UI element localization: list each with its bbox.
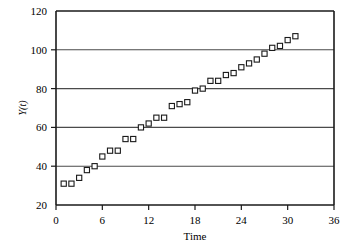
data-point-marker [262, 51, 267, 56]
x-tick-label: 18 [190, 214, 202, 226]
y-tick-label: 40 [36, 160, 48, 172]
y-axis-title: Y(t) [17, 100, 29, 116]
x-tick-label: 0 [53, 214, 59, 226]
y-tick-label-group: 20406080100120 [31, 5, 48, 211]
data-point-marker [293, 34, 298, 39]
x-tick-label: 12 [143, 214, 154, 226]
scatter-chart: 061218243036 20406080100120 Time Y(t) [0, 0, 359, 245]
x-tick-label: 36 [329, 214, 341, 226]
data-point-marker [131, 136, 136, 141]
data-point-marker [123, 136, 128, 141]
data-point-marker [69, 181, 74, 186]
data-point-marker [192, 88, 197, 93]
data-point-marker [146, 121, 151, 126]
y-tick-label: 120 [31, 5, 48, 17]
data-point-marker [185, 100, 190, 105]
data-point-marker [254, 57, 259, 62]
data-point-marker [246, 61, 251, 66]
data-point-marker [100, 154, 105, 159]
data-point-marker [285, 38, 290, 43]
data-point-marker [61, 181, 66, 186]
plot-frame [56, 11, 334, 205]
data-point-marker [154, 115, 159, 120]
data-point-marker [77, 175, 82, 180]
data-point-marker [107, 148, 112, 153]
data-point-marker [84, 167, 89, 172]
x-axis-title: Time [184, 230, 207, 242]
y-tick-label: 20 [36, 199, 48, 211]
gridline-group [56, 50, 334, 166]
data-marker-group [61, 34, 298, 187]
y-tick-label: 100 [31, 44, 48, 56]
data-point-marker [138, 125, 143, 130]
chart-canvas: 061218243036 20406080100120 Time Y(t) [0, 0, 359, 245]
data-point-marker [208, 78, 213, 83]
x-tick-label: 6 [100, 214, 106, 226]
data-point-marker [169, 103, 174, 108]
data-point-marker [200, 86, 205, 91]
data-point-marker [162, 115, 167, 120]
x-tick-label: 24 [236, 214, 248, 226]
data-point-marker [223, 72, 228, 77]
data-point-marker [270, 45, 275, 50]
x-tick-label-group: 061218243036 [53, 214, 340, 226]
data-point-marker [177, 102, 182, 107]
x-tick-label: 30 [282, 214, 294, 226]
data-point-marker [92, 164, 97, 169]
data-point-marker [216, 78, 221, 83]
data-point-marker [115, 148, 120, 153]
y-tick-label: 80 [36, 83, 48, 95]
data-point-marker [239, 65, 244, 70]
data-point-marker [231, 70, 236, 75]
y-tick-label: 60 [36, 121, 48, 133]
data-point-marker [277, 43, 282, 48]
